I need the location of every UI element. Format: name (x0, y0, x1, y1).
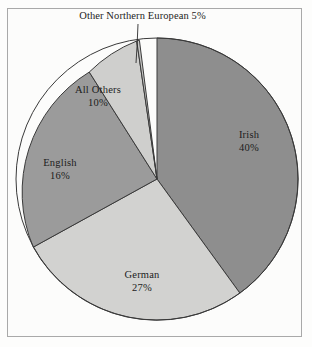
slice-label-irish-value: 40% (216, 142, 282, 155)
figure-container: Other Northern European 5% Irish 40% Ger… (0, 0, 312, 347)
slice-label-english-value: 16% (25, 170, 95, 183)
slice-label-german: German 27% (104, 269, 180, 294)
slice-label-english: English 16% (25, 157, 95, 182)
pie-chart: Other Northern European 5% Irish 40% Ger… (0, 0, 312, 347)
slice-label-all-others-value: 10% (57, 97, 139, 110)
slice-label-all-others: All Others 10% (57, 84, 139, 109)
slice-label-all-others-name: All Others (57, 84, 139, 97)
slice-label-other-northern-european: Other Northern European 5% (55, 9, 230, 22)
slice-label-irish: Irish 40% (216, 129, 282, 154)
slice-label-english-name: English (25, 157, 95, 170)
slice-label-german-value: 27% (104, 282, 180, 295)
slice-label-irish-name: Irish (216, 129, 282, 142)
slice-label-german-name: German (104, 269, 180, 282)
